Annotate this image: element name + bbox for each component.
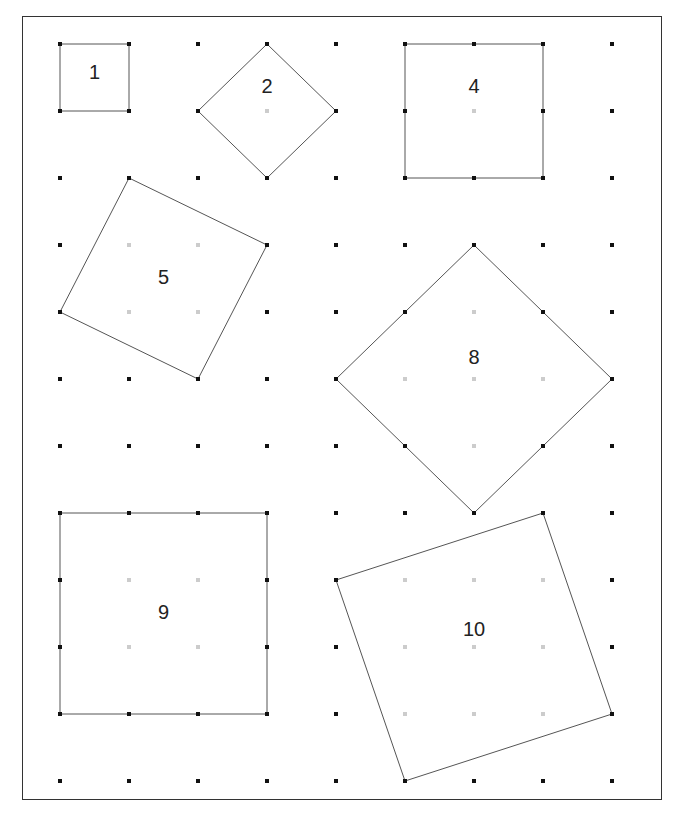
grid-dot xyxy=(610,243,614,247)
grid-dot xyxy=(403,176,407,180)
grid-dot xyxy=(265,578,269,582)
grid-dot xyxy=(58,243,62,247)
interior-grid-dot xyxy=(403,645,407,649)
grid-dot xyxy=(58,310,62,314)
square-label: 5 xyxy=(158,266,169,288)
grid-dot xyxy=(334,377,338,381)
grid-dot xyxy=(610,310,614,314)
grid-dot xyxy=(196,176,200,180)
grid-dot xyxy=(127,42,131,46)
grid-dot xyxy=(334,712,338,716)
grid-dot xyxy=(127,511,131,515)
grid-dot xyxy=(610,176,614,180)
square-label: 9 xyxy=(158,601,169,623)
grid-dot xyxy=(265,377,269,381)
grid-dot xyxy=(334,444,338,448)
interior-grid-dot xyxy=(127,645,131,649)
interior-grid-dot xyxy=(541,645,545,649)
grid-dot xyxy=(472,511,476,515)
grid-dot xyxy=(610,511,614,515)
grid-dot xyxy=(265,243,269,247)
grid-dot xyxy=(610,645,614,649)
grid-dot xyxy=(196,42,200,46)
interior-grid-dot xyxy=(541,377,545,381)
interior-grid-dot xyxy=(127,243,131,247)
square-label: 2 xyxy=(261,75,272,97)
grid-dot xyxy=(334,42,338,46)
interior-grid-dot xyxy=(472,109,476,113)
grid-dot xyxy=(196,109,200,113)
interior-grid-dot xyxy=(472,645,476,649)
grid-dot xyxy=(127,444,131,448)
grid-dot xyxy=(334,511,338,515)
grid-dot xyxy=(196,712,200,716)
grid-dot xyxy=(403,310,407,314)
grid-dot xyxy=(265,511,269,515)
grid-dot xyxy=(541,779,545,783)
interior-grid-dot xyxy=(403,712,407,716)
grid-dot xyxy=(265,444,269,448)
grid-dot xyxy=(610,444,614,448)
interior-grid-dot xyxy=(541,712,545,716)
grid-dot xyxy=(541,42,545,46)
interior-grid-dot xyxy=(196,578,200,582)
interior-grid-dot xyxy=(127,310,131,314)
interior-grid-dot xyxy=(196,310,200,314)
grid-dot xyxy=(334,578,338,582)
grid-dot xyxy=(196,377,200,381)
interior-grid-dot xyxy=(472,578,476,582)
interior-grid-dot xyxy=(403,377,407,381)
grid-dot xyxy=(541,511,545,515)
squares-layer xyxy=(60,44,612,781)
grid-dot xyxy=(265,176,269,180)
interior-grid-dot xyxy=(472,310,476,314)
grid-dot xyxy=(334,176,338,180)
interior-grid-dot xyxy=(127,578,131,582)
grid-dot xyxy=(127,779,131,783)
grid-dot xyxy=(403,511,407,515)
square-label: 10 xyxy=(463,618,485,640)
grid-dot xyxy=(127,377,131,381)
grid-dot xyxy=(127,176,131,180)
interior-grid-dot xyxy=(196,243,200,247)
grid-dot xyxy=(58,645,62,649)
grid-dot xyxy=(541,310,545,314)
grid-dot xyxy=(265,712,269,716)
interior-grid-dot xyxy=(472,444,476,448)
grid-dot xyxy=(472,243,476,247)
grid-dot xyxy=(472,42,476,46)
grid-dot xyxy=(58,176,62,180)
grid-dot xyxy=(58,109,62,113)
grid-dot xyxy=(610,42,614,46)
grid-dot xyxy=(58,779,62,783)
grid-dot xyxy=(541,444,545,448)
grid-dot xyxy=(610,578,614,582)
grid-dot xyxy=(127,712,131,716)
square-label: 8 xyxy=(468,346,479,368)
grid-dot xyxy=(58,42,62,46)
square-label: 4 xyxy=(468,75,479,97)
grid-dot xyxy=(403,42,407,46)
grid-dot xyxy=(610,712,614,716)
square-labels-layer: 12458910 xyxy=(89,61,485,639)
grid-dot xyxy=(334,243,338,247)
grid-dot xyxy=(58,444,62,448)
grid-dot xyxy=(541,243,545,247)
grid-dot xyxy=(127,109,131,113)
grid-dot xyxy=(265,42,269,46)
grid-dot xyxy=(541,109,545,113)
grid-dot xyxy=(334,645,338,649)
grid-dot xyxy=(334,310,338,314)
grid-dot xyxy=(610,779,614,783)
grid-dot xyxy=(403,243,407,247)
grid-dot xyxy=(472,779,476,783)
grid-dot xyxy=(403,109,407,113)
interior-grid-dot xyxy=(196,645,200,649)
grid-dot xyxy=(265,779,269,783)
interior-grid-dot xyxy=(403,578,407,582)
interior-grid-dot xyxy=(265,109,269,113)
grid-dot xyxy=(196,511,200,515)
grid-dot xyxy=(610,377,614,381)
grid-dot xyxy=(334,109,338,113)
geoboard-diagram: 12458910 xyxy=(0,0,673,828)
